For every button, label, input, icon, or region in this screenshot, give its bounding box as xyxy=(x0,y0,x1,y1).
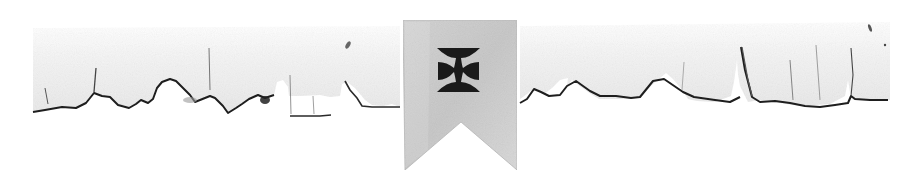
right-torn-paper-strip xyxy=(520,22,890,107)
left-torn-paper-strip xyxy=(33,26,400,116)
pennant-banner xyxy=(403,20,517,170)
torn-paper-divider-ornament: Torn paper divider with pennant banner b… xyxy=(0,0,920,188)
ornament-graphic xyxy=(0,0,920,188)
